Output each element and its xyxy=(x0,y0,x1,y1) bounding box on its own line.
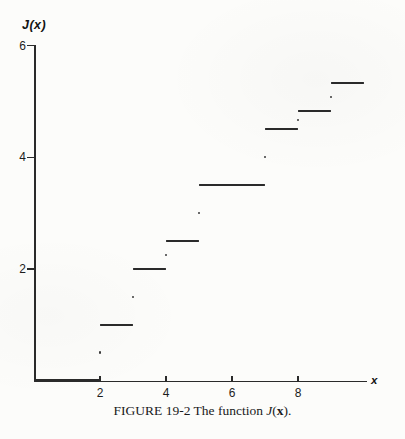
figure-caption: FIGURE 19-2 The function J(x). xyxy=(0,403,405,419)
step-segment xyxy=(133,268,166,270)
y-axis-line xyxy=(34,45,36,382)
step-function-plot: J(x) x 2462468 xyxy=(0,0,405,405)
caption-argument: x xyxy=(277,403,284,418)
x-tick-label: 6 xyxy=(221,385,243,401)
step-segment xyxy=(265,128,298,130)
y-tick-label: 4 xyxy=(4,149,26,165)
x-axis-title: x xyxy=(371,374,377,386)
jump-midpoint-dot xyxy=(132,296,134,298)
x-tick-label: 8 xyxy=(287,385,309,401)
step-segment xyxy=(100,324,133,326)
step-segment xyxy=(199,184,265,186)
book-page: J(x) x 2462468 FIGURE 19-2 The function … xyxy=(0,0,405,439)
y-axis-tick xyxy=(27,45,35,46)
jump-midpoint-dot xyxy=(297,119,299,121)
x-tick-label: 4 xyxy=(155,385,177,401)
caption-close: ). xyxy=(284,403,292,418)
y-tick-label: 6 xyxy=(4,38,26,54)
y-tick-label: 2 xyxy=(4,261,26,277)
jump-midpoint-dot xyxy=(264,156,266,158)
jump-midpoint-dot xyxy=(99,351,101,353)
jump-midpoint-dot xyxy=(330,96,332,98)
caption-prefix: FIGURE 19-2 The function xyxy=(114,403,267,418)
x-tick-label: 2 xyxy=(89,385,111,401)
jump-midpoint-dot xyxy=(198,212,200,214)
y-axis-tick xyxy=(27,268,35,269)
step-segment xyxy=(298,110,331,112)
x-axis-tick xyxy=(231,376,232,382)
y-axis-title: J(x) xyxy=(22,18,46,32)
x-axis-tick xyxy=(297,376,298,382)
x-axis-tick xyxy=(165,376,166,382)
step-segment xyxy=(34,379,100,382)
jump-midpoint-dot xyxy=(165,254,167,256)
step-segment xyxy=(331,82,364,84)
y-axis-tick xyxy=(27,157,35,158)
step-segment xyxy=(166,240,199,242)
